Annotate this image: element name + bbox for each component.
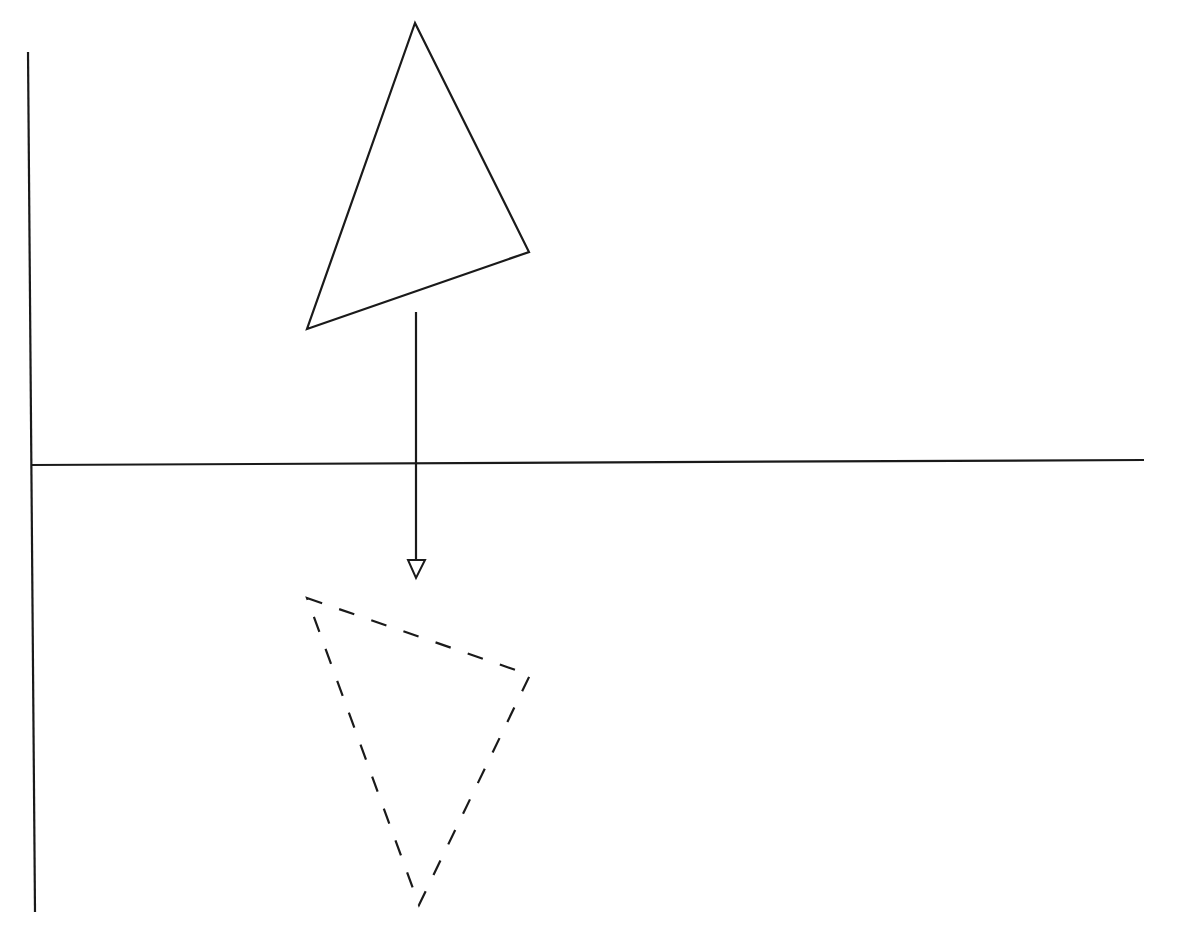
- horizontal-axis: [32, 460, 1144, 465]
- original-triangle: [307, 23, 529, 329]
- diagram-canvas: [0, 0, 1177, 949]
- vertical-axis: [28, 52, 35, 912]
- reflection-diagram: [0, 0, 1177, 949]
- reflected-triangle: [307, 598, 530, 905]
- arrow-head-icon: [408, 560, 425, 578]
